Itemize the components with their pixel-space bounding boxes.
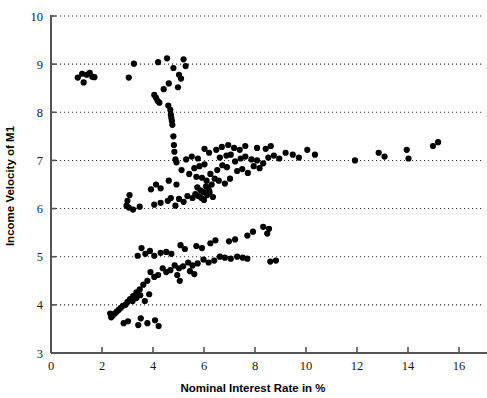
data-point bbox=[168, 251, 174, 257]
data-point bbox=[219, 144, 225, 150]
data-point bbox=[228, 256, 234, 262]
data-point bbox=[142, 251, 148, 257]
data-point bbox=[135, 253, 141, 259]
data-point bbox=[189, 153, 195, 159]
x-tick-label-10: 10 bbox=[300, 359, 313, 373]
y-tick-labels: 345678910 bbox=[31, 10, 44, 361]
data-point bbox=[213, 147, 219, 153]
data-point bbox=[193, 174, 199, 180]
data-point bbox=[207, 171, 213, 177]
data-point bbox=[182, 246, 188, 252]
data-point bbox=[144, 320, 150, 326]
data-point bbox=[170, 65, 176, 71]
data-point bbox=[152, 317, 158, 323]
data-point bbox=[81, 79, 87, 85]
data-point bbox=[209, 181, 215, 187]
data-point bbox=[211, 257, 217, 263]
data-point bbox=[151, 274, 157, 280]
data-point bbox=[224, 164, 230, 170]
data-point bbox=[260, 224, 266, 230]
data-point bbox=[107, 310, 113, 316]
data-point bbox=[267, 258, 273, 264]
data-point bbox=[177, 278, 183, 284]
data-point bbox=[222, 180, 228, 186]
x-tick-label-2: 2 bbox=[99, 359, 105, 373]
data-point bbox=[126, 75, 132, 81]
data-point bbox=[242, 143, 248, 149]
data-point bbox=[250, 229, 256, 235]
x-axis-title: Nominal Interest Rate in % bbox=[180, 382, 325, 394]
data-point bbox=[138, 315, 144, 321]
y-tick-label-4: 4 bbox=[37, 298, 44, 312]
data-point bbox=[227, 176, 233, 182]
data-point bbox=[181, 199, 187, 205]
data-point bbox=[153, 181, 159, 187]
data-point bbox=[245, 170, 251, 176]
data-point bbox=[156, 323, 162, 329]
scatter-plot-figure: 0246810121416 345678910 Nominal Interest… bbox=[0, 0, 487, 398]
data-point bbox=[283, 150, 289, 156]
data-point bbox=[158, 200, 164, 206]
data-point bbox=[430, 143, 436, 149]
scatter-plot-svg: 0246810121416 345678910 Nominal Interest… bbox=[0, 0, 487, 398]
data-point bbox=[244, 232, 250, 238]
data-point bbox=[170, 133, 176, 139]
data-point bbox=[137, 204, 143, 210]
data-point bbox=[138, 245, 144, 251]
data-point bbox=[186, 171, 192, 177]
data-point bbox=[225, 142, 231, 148]
data-point bbox=[254, 145, 260, 151]
data-point bbox=[381, 153, 387, 159]
data-point bbox=[404, 147, 410, 153]
data-point bbox=[185, 259, 191, 265]
data-point bbox=[173, 159, 179, 165]
data-point bbox=[217, 154, 223, 160]
data-point bbox=[405, 155, 411, 161]
x-tick-labels: 0246810121416 bbox=[48, 359, 465, 373]
x-tick-label-8: 8 bbox=[252, 359, 258, 373]
data-point bbox=[256, 165, 262, 171]
data-point bbox=[200, 257, 206, 263]
data-point bbox=[168, 195, 174, 201]
data-point bbox=[146, 291, 152, 297]
data-point bbox=[210, 194, 216, 200]
data-point bbox=[248, 156, 254, 162]
data-point bbox=[135, 322, 141, 328]
data-point bbox=[148, 186, 154, 192]
y-tick-label-8: 8 bbox=[37, 106, 43, 120]
data-point bbox=[91, 74, 97, 80]
data-point bbox=[137, 292, 143, 298]
data-point bbox=[242, 153, 248, 159]
data-point bbox=[239, 166, 245, 172]
data-point bbox=[171, 149, 177, 155]
data-point bbox=[312, 152, 318, 158]
data-point bbox=[203, 178, 209, 184]
axes bbox=[51, 15, 487, 353]
data-point bbox=[166, 178, 172, 184]
x-tick-label-16: 16 bbox=[453, 359, 466, 373]
data-point bbox=[376, 150, 382, 156]
data-point bbox=[166, 80, 172, 86]
data-point bbox=[156, 100, 162, 106]
data-point bbox=[147, 269, 153, 275]
data-point bbox=[195, 155, 201, 161]
x-tick-label-0: 0 bbox=[48, 359, 54, 373]
data-point bbox=[223, 153, 229, 159]
x-tick-label-12: 12 bbox=[351, 359, 364, 373]
data-point bbox=[304, 147, 310, 153]
data-point bbox=[222, 255, 228, 261]
y-tick-label-9: 9 bbox=[37, 58, 43, 72]
data-point bbox=[273, 257, 279, 263]
data-point bbox=[296, 154, 302, 160]
y-tick-label-10: 10 bbox=[31, 10, 44, 24]
data-point bbox=[175, 84, 181, 90]
y-tick-label-7: 7 bbox=[37, 154, 43, 168]
data-point bbox=[201, 161, 207, 167]
tick-marks bbox=[51, 16, 459, 353]
data-point bbox=[173, 181, 179, 187]
data-point bbox=[183, 156, 189, 162]
data-point bbox=[251, 163, 257, 169]
data-point bbox=[142, 298, 148, 304]
data-point bbox=[352, 157, 358, 163]
data-point bbox=[183, 63, 189, 69]
